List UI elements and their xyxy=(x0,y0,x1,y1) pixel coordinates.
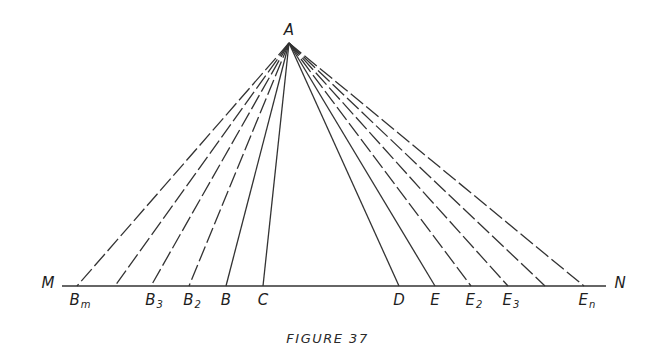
point-label-en: En xyxy=(579,293,596,310)
ray-to-e2 xyxy=(289,43,471,286)
ray-to-b4 xyxy=(115,43,289,286)
figure-caption: FIGURE 37 xyxy=(286,331,368,346)
point-label-c: C xyxy=(258,293,268,308)
point-label-b2: B2 xyxy=(183,293,201,310)
ray-to-e4 xyxy=(289,43,545,286)
point-label-b3: B3 xyxy=(145,293,163,310)
point-label-e3: E3 xyxy=(503,293,520,310)
geometry-diagram xyxy=(0,0,655,364)
point-label-bm: Bm xyxy=(69,293,90,310)
ray-to-b3 xyxy=(151,43,289,286)
ray-to-en xyxy=(289,43,584,286)
ray-to-d xyxy=(289,43,399,286)
point-label-e2: E2 xyxy=(466,293,483,310)
ray-group xyxy=(77,43,584,286)
point-label-e: E xyxy=(430,293,439,308)
ray-to-c xyxy=(263,43,289,286)
point-label-b: B xyxy=(221,293,231,308)
baseline-label-n: N xyxy=(614,276,625,291)
baseline-label-m: M xyxy=(42,276,55,291)
ray-to-e xyxy=(289,43,435,286)
ray-to-e3 xyxy=(289,43,508,286)
ray-to-b2 xyxy=(189,43,289,286)
apex-label-a: A xyxy=(284,23,294,38)
figure-37: A M N BmB3B2BCDEE2E3En FIGURE 37 xyxy=(0,0,655,364)
point-label-d: D xyxy=(393,293,405,308)
